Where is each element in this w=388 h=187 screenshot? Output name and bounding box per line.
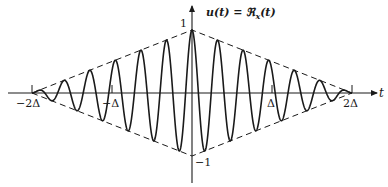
- x-tick-delta: Δ: [267, 97, 275, 110]
- y-tick-minus-1: −1: [195, 156, 211, 169]
- y-tick-1: 1: [180, 17, 187, 30]
- x-tick-minus-delta: −Δ: [102, 97, 119, 110]
- ambiguity-function-plot: u(t) = ℜx(t) t 1 −1 −2Δ −Δ Δ 2Δ: [0, 0, 388, 187]
- x-tick-2delta: 2Δ: [343, 97, 358, 110]
- chart-title: u(t) = ℜx(t): [206, 6, 276, 21]
- x-tick-minus-2delta: −2Δ: [16, 97, 40, 110]
- t-axis-label: t: [379, 86, 384, 100]
